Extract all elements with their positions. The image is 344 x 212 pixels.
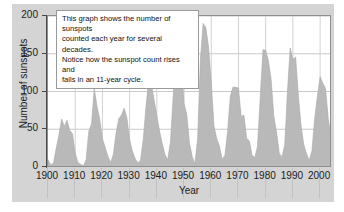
y-tick-mark bbox=[42, 15, 47, 16]
sunspot-chart-figure: 200150100500 Number of sunspots 19001910… bbox=[0, 0, 344, 212]
y-tick-mark bbox=[42, 128, 47, 129]
y-axis-line bbox=[46, 15, 47, 168]
annotation-line-1: This graph shows the number of sunspots bbox=[62, 14, 194, 34]
y-axis-title: Number of sunspots bbox=[18, 14, 29, 154]
annotation-line-2: counted each year for several decades. bbox=[62, 34, 194, 54]
y-tick-mark bbox=[42, 53, 47, 54]
y-tick-mark bbox=[42, 166, 47, 167]
x-tick-label: 2000 bbox=[302, 170, 336, 181]
annotation-callout: This graph shows the number of sunspots … bbox=[56, 10, 199, 89]
y-tick-mark bbox=[42, 91, 47, 92]
y-tick-label: 50 bbox=[27, 123, 38, 133]
annotation-line-3: Notice how the sunspot count rises and bbox=[62, 55, 194, 75]
x-axis-title: Year bbox=[47, 185, 331, 196]
annotation-line-4: falls in an 11-year cycle. bbox=[62, 75, 194, 85]
